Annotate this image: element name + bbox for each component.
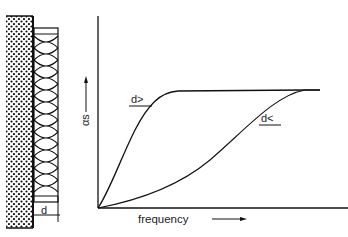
curve-label-d-less: d< <box>261 112 274 124</box>
chart-axes <box>98 16 348 208</box>
thickness-label: d <box>41 204 47 216</box>
wall-section: d <box>6 16 60 228</box>
masonry-wall <box>6 16 33 228</box>
x-axis-label: frequency <box>138 213 189 225</box>
x-axis-label-group: frequency <box>138 213 247 225</box>
insulation-layer <box>34 28 58 202</box>
thickness-dimension: d <box>34 196 60 222</box>
curve-thick <box>98 90 320 208</box>
label-thin-curve: d< <box>259 112 281 125</box>
label-thick-curve: d> <box>129 93 152 106</box>
curve-thin <box>98 90 320 208</box>
curve-label-d-greater: d> <box>131 93 144 105</box>
y-axis-label-group: αs <box>79 76 91 126</box>
y-axis-label: αs <box>79 114 91 126</box>
absorption-diagram: d αs frequency d> d< <box>0 0 348 237</box>
